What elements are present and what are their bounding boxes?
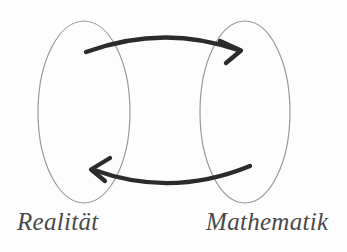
arrowhead-right-icon [220,41,241,63]
set-label-mathematics: Mathematik [206,209,328,234]
arrow-shaft-top [86,37,238,52]
arrow-reality-to-mathematics [86,37,241,63]
arrowhead-left-icon [91,158,110,181]
diagram-canvas: Realität Mathematik [0,0,347,252]
set-label-reality: Realität [17,209,99,234]
